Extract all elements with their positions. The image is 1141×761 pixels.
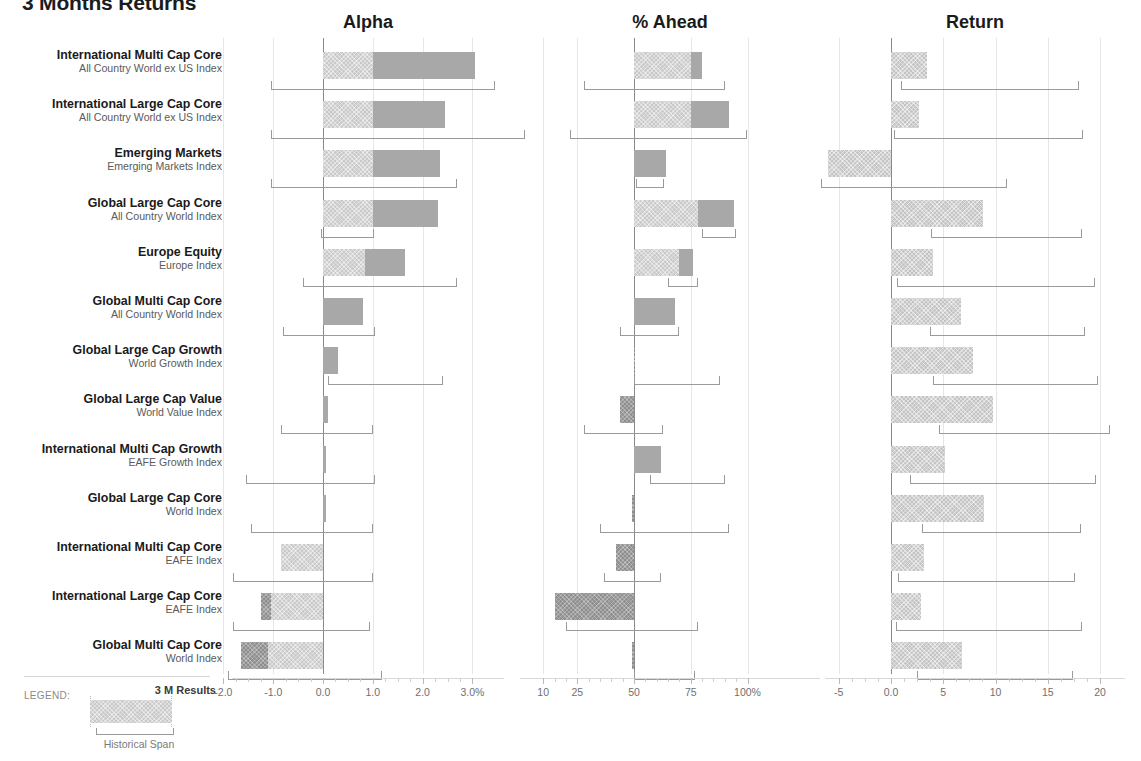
benchmark-name: All Country World Index: [0, 210, 222, 223]
axis-tick-minor: [555, 678, 556, 682]
bar-segment-light: [323, 52, 373, 79]
strategy-name: Global Large Cap Growth: [0, 343, 222, 357]
benchmark-name: World Index: [0, 505, 222, 518]
legend: LEGEND: 3 M Results Historical Span: [24, 676, 224, 761]
bar-segment-mid: [698, 200, 734, 227]
historical-span-bracket: [271, 81, 495, 90]
axis-tick-major: [748, 678, 749, 684]
bar-segment-mid: [323, 396, 328, 423]
historical-span-bracket: [328, 376, 443, 385]
axis-ahead: 10255075100%: [520, 678, 820, 708]
historical-span-bracket: [604, 573, 661, 582]
historical-span-bracket: [930, 327, 1086, 336]
bar-segment: [891, 101, 919, 128]
benchmark-name: Emerging Markets Index: [0, 160, 222, 173]
historical-span-bracket: [271, 130, 525, 139]
axis-tick-minor: [713, 678, 714, 682]
bar-alpha: [232, 544, 504, 571]
plot-area-return: [825, 38, 1125, 674]
benchmark-name: World Growth Index: [0, 357, 222, 370]
plot-area-ahead: [520, 38, 820, 674]
bar-segment-mid: [691, 101, 730, 128]
benchmark-name: All Country World ex US Index: [0, 111, 222, 124]
bar-segment-light: [632, 642, 634, 669]
bar-ahead: [520, 101, 820, 128]
axis-tick-minor: [311, 678, 312, 682]
strategy-name: International Large Cap Core: [0, 589, 222, 603]
row-label: Europe EquityEurope Index: [0, 245, 232, 272]
bar-segment-mid: [634, 150, 666, 177]
bar-ahead: [520, 347, 820, 374]
bar-segment-light: [620, 396, 634, 423]
axis-tick-major: [273, 678, 274, 684]
axis-tick-minor: [448, 678, 449, 682]
axis-tick-minor: [298, 678, 299, 682]
axis-tick-label: 2.0: [415, 686, 430, 698]
axis-tick-major: [543, 678, 544, 684]
bar-segment-light: [634, 52, 691, 79]
strategy-name: Global Multi Cap Core: [0, 638, 222, 652]
axis-line: [825, 678, 1125, 679]
gridline-alpha: [223, 38, 224, 674]
legend-bar-swatch: [90, 700, 172, 723]
bar-segment-light: [634, 101, 691, 128]
strategy-name: Global Multi Cap Core: [0, 294, 222, 308]
bar-segment-dark: [261, 593, 271, 620]
benchmark-name: All Country World Index: [0, 308, 222, 321]
axis-tick-label: 50: [628, 686, 640, 698]
bar-segment-mid: [373, 200, 438, 227]
axis-tick-minor: [600, 678, 601, 682]
bar-segment-light: [268, 642, 323, 669]
historical-span-bracket: [896, 622, 1082, 631]
axis-tick-major: [1048, 678, 1049, 684]
axis-tick-minor: [589, 678, 590, 682]
axis-tick-minor: [1022, 678, 1023, 682]
axis-tick-minor: [435, 678, 436, 682]
axis-tick-label: 1.0: [365, 686, 380, 698]
bar-segment-light: [323, 200, 373, 227]
row-label: Global Multi Cap CoreWorld Index: [0, 638, 232, 665]
bar-segment-light: [616, 544, 634, 571]
row-label: Emerging MarketsEmerging Markets Index: [0, 146, 232, 173]
historical-span-bracket: [897, 278, 1095, 287]
bar-segment-mid: [323, 298, 363, 325]
axis-tick-label: 25: [571, 686, 583, 698]
benchmark-name: Europe Index: [0, 259, 222, 272]
bar-segment-light: [323, 101, 373, 128]
axis-tick-minor: [385, 678, 386, 682]
bar-segment-mid: [691, 52, 702, 79]
axis-tick-major: [634, 678, 635, 684]
bar-alpha: [232, 396, 504, 423]
bar-segment: [828, 150, 891, 177]
axis-tick-label: 10: [537, 686, 549, 698]
axis-tick-minor: [645, 678, 646, 682]
axis-tick-minor: [917, 678, 918, 682]
bar-return: [825, 642, 1125, 669]
bar-segment-mid: [634, 446, 661, 473]
historical-span-bracket: [584, 81, 725, 90]
historical-span-bracket: [321, 229, 374, 238]
axis-tick-minor: [1087, 678, 1088, 682]
bar-return: [825, 544, 1125, 571]
bar-ahead: [520, 446, 820, 473]
bar-segment: [891, 347, 973, 374]
historical-span-bracket: [933, 376, 1098, 385]
bar-segment-mid: [679, 249, 693, 276]
axis-tick-minor: [969, 678, 970, 682]
bar-ahead: [520, 150, 820, 177]
axis-tick-minor: [668, 678, 669, 682]
axis-tick-minor: [878, 678, 879, 682]
benchmark-name: EAFE Index: [0, 554, 222, 567]
axis-tick-minor: [236, 678, 237, 682]
axis-tick-label: 5: [940, 686, 946, 698]
axis-tick-label: 3.0%: [460, 686, 484, 698]
historical-span-bracket: [901, 81, 1079, 90]
panel-alpha: [232, 38, 504, 678]
historical-span-bracket: [303, 278, 457, 287]
benchmark-name: World Index: [0, 652, 222, 665]
axis-return: -50.05101520: [825, 678, 1125, 708]
bar-segment-mid: [373, 101, 445, 128]
strategy-name: International Multi Cap Core: [0, 540, 222, 554]
historical-span-bracket: [894, 130, 1083, 139]
bar-segment: [891, 298, 961, 325]
